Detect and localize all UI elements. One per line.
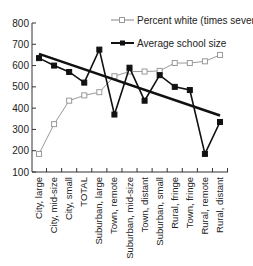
legend-item-school-size: Average school size [111,38,227,49]
data-point-marker [172,84,177,89]
x-category-label: Town, remote [108,177,119,234]
data-point-marker [127,65,132,70]
data-point-marker [52,122,57,127]
x-category-label: Rural, remote [199,177,210,235]
y-axis: 100200300400500600700800 [12,18,36,178]
y-tick-label: 500 [12,81,29,92]
legend-label: Percent white (times seven) [137,15,253,26]
x-category-label: Suburban, large [93,177,104,245]
y-tick-label: 100 [12,167,29,178]
x-axis: City, largeCity, mid-sizeCity, smallTOTA… [32,168,228,259]
x-category-label: Suburban, small [154,177,165,246]
x-category-label: City, small [63,177,74,220]
data-point-marker [82,93,87,98]
legend: Percent white (times seven) Average scho… [111,15,253,49]
x-category-label: TOTAL [78,177,89,207]
data-point-marker [142,69,147,74]
chart: 100200300400500600700800 City, largeCity… [0,0,253,266]
data-point-marker [157,73,162,78]
y-tick-label: 200 [12,145,29,156]
data-point-marker [67,69,72,74]
data-point-marker [97,47,102,52]
x-category-label: City, mid-size [48,177,59,233]
legend-label: Average school size [137,38,227,49]
data-point-marker [82,80,87,85]
open-square-marker-icon [120,18,125,23]
data-point-marker [112,112,117,117]
data-point-marker [37,151,42,156]
data-point-marker [202,59,207,64]
y-tick-label: 600 [12,60,29,71]
data-point-marker [52,63,57,68]
y-tick-label: 800 [12,18,29,29]
x-category-label: Suburban, mid-size [124,177,135,259]
data-point-marker [67,98,72,103]
data-point-marker [142,98,147,103]
data-point-marker [218,52,223,57]
data-point-marker [202,151,207,156]
x-category-label: City, large [33,177,44,219]
data-point-marker [187,88,192,93]
y-tick-label: 700 [12,39,29,50]
legend-item-percent-white: Percent white (times seven) [111,15,253,26]
y-tick-label: 400 [12,103,29,114]
data-point-marker [187,61,192,66]
x-category-label: Town, distant [139,177,150,233]
x-category-label: Town, fringe [184,177,195,228]
data-point-marker [218,119,223,124]
filled-square-marker-icon [120,41,125,46]
x-category-label: Rural, distant [214,177,225,233]
x-category-label: Rural, fringe [169,177,180,229]
data-point-marker [172,61,177,66]
y-tick-label: 300 [12,124,29,135]
data-point-marker [97,90,102,95]
data-point-marker [37,56,42,61]
